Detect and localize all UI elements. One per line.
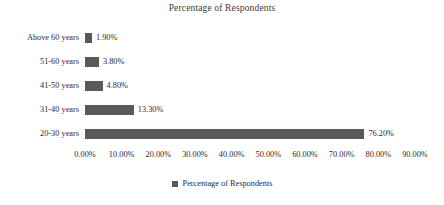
bar-row: Above 60 years1.90% (0, 26, 444, 50)
bar-track: 76.20% (85, 122, 415, 146)
bar-value-label: 76.20% (364, 122, 394, 146)
bar[interactable] (85, 105, 134, 115)
bar-row: 41-50 years4.80% (0, 74, 444, 98)
chart-title: Percentage of Respondents (0, 3, 444, 13)
x-tick-label: 0.00% (74, 150, 95, 159)
bar-value-label: 4.80% (103, 74, 128, 98)
bar-track: 3.80% (85, 50, 415, 74)
x-tick-label: 80.00% (366, 150, 392, 159)
category-label: 20-30 years (0, 122, 79, 146)
bar-value-label: 1.90% (92, 26, 117, 50)
category-label: Above 60 years (0, 26, 79, 50)
bar-row: 20-30 years76.20% (0, 122, 444, 146)
bar[interactable] (85, 33, 92, 43)
x-tick-label: 20.00% (146, 150, 172, 159)
category-label: 51-60 years (0, 50, 79, 74)
x-tick-label: 30.00% (182, 150, 208, 159)
bar-track: 1.90% (85, 26, 415, 50)
bar-row: 31-40 years13.30% (0, 98, 444, 122)
x-tick-label: 40.00% (219, 150, 245, 159)
bar-row: 51-60 years3.80% (0, 50, 444, 74)
bar-chart: Percentage of Respondents Above 60 years… (0, 0, 444, 205)
bar-track: 13.30% (85, 98, 415, 122)
chart-legend: Percentage of Respondents (0, 179, 444, 188)
bar-track: 4.80% (85, 74, 415, 98)
category-label: 41-50 years (0, 74, 79, 98)
bar[interactable] (85, 57, 99, 67)
x-tick-label: 10.00% (109, 150, 135, 159)
x-tick-label: 70.00% (329, 150, 355, 159)
bar-value-label: 13.30% (134, 98, 164, 122)
x-tick-label: 60.00% (292, 150, 318, 159)
bar[interactable] (85, 81, 103, 91)
bar[interactable] (85, 129, 364, 139)
category-label: 31-40 years (0, 98, 79, 122)
legend-square-marker (172, 181, 178, 187)
x-tick-label: 50.00% (256, 150, 282, 159)
plot-area: Above 60 years1.90%51-60 years3.80%41-50… (0, 26, 444, 150)
x-tick-label: 90.00% (402, 150, 428, 159)
legend-label: Percentage of Respondents (183, 179, 273, 188)
bar-value-label: 3.80% (99, 50, 124, 74)
x-axis: 0.00%10.00%20.00%30.00%40.00%50.00%60.00… (85, 150, 415, 164)
